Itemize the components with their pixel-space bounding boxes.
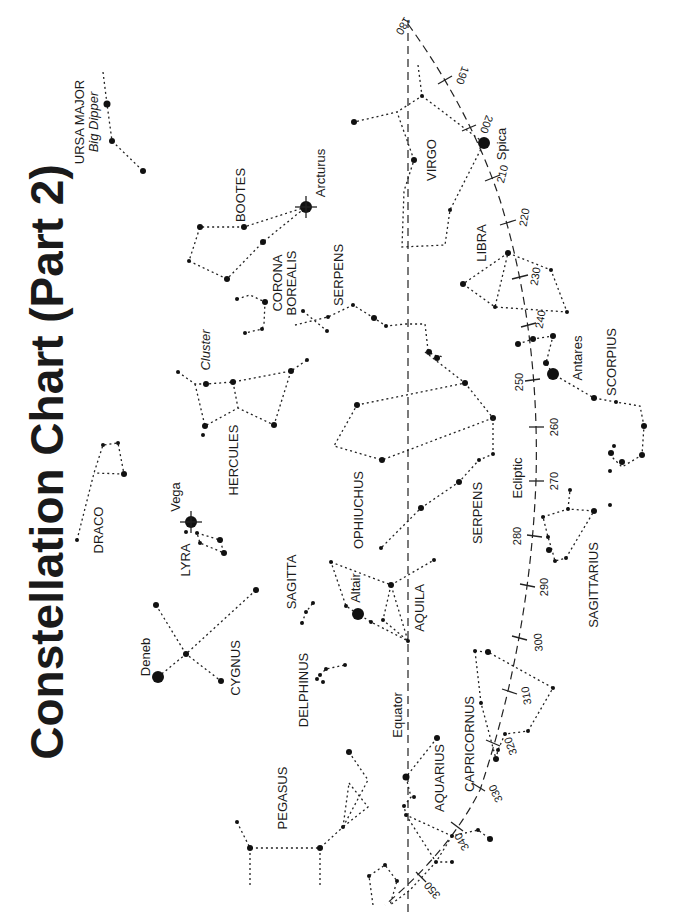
svg-text:LIBRA: LIBRA [474,224,489,262]
svg-text:BOREALIS: BOREALIS [284,250,299,315]
svg-text:Big Dipper: Big Dipper [86,91,101,152]
svg-text:Arcturus: Arcturus [313,148,328,197]
star-altair [352,608,364,620]
constellation-delphinus: DELPHINUS [296,652,347,727]
svg-text:310: 310 [519,686,534,706]
svg-text:SAGITTA: SAGITTA [284,554,299,609]
svg-text:SAGITTARIUS: SAGITTARIUS [586,542,601,628]
constellation-sagitta: SAGITTA [284,554,315,625]
constellation-pegasus: PEGASUS [235,749,368,885]
svg-text:180: 180 [394,15,414,37]
svg-text:VIRGO: VIRGO [424,139,439,181]
constellation-corona-borealis: CORONA BOREALIS [235,250,299,335]
svg-text:270: 270 [548,472,560,490]
constellation-scorpius: SCORPIUS Antares [515,328,647,507]
svg-text:CAPRICORNUS: CAPRICORNUS [462,696,477,792]
equator-label: Equator [390,692,405,738]
constellation-lyra: LYRA Vega [168,481,227,576]
svg-text:260: 260 [548,418,560,436]
svg-text:OPHIUCHUS: OPHIUCHUS [351,471,366,549]
svg-text:Spica: Spica [494,127,509,160]
constellation-sagittarius: SAGITTARIUS [541,488,601,628]
star-spica [478,137,490,149]
ecliptic-label: Ecliptic [510,457,525,499]
svg-text:SERPENS: SERPENS [331,244,346,306]
svg-text:350: 350 [421,880,442,902]
svg-text:Cluster: Cluster [198,329,213,371]
svg-text:SCORPIUS: SCORPIUS [604,328,619,396]
svg-text:210: 210 [494,164,510,185]
svg-text:LYRA: LYRA [178,543,193,576]
svg-text:AQUILA: AQUILA [412,584,427,632]
star-antares [547,368,559,380]
svg-text:290: 290 [538,578,550,596]
svg-text:320: 320 [501,736,519,757]
svg-text:HERCULES: HERCULES [226,424,241,495]
svg-text:CYGNUS: CYGNUS [228,640,243,696]
svg-text:190: 190 [454,65,472,86]
constellation-bootes: BOOTES Arcturus [187,148,328,282]
svg-text:200: 200 [478,114,496,135]
constellation-hercules: HERCULES Cluster [176,329,309,496]
svg-text:PEGASUS: PEGASUS [275,766,290,829]
constellation-serpens-cauda: SERPENS [379,418,495,550]
svg-text:330: 330 [486,783,505,805]
constellation-virgo: VIRGO Spica [351,65,509,247]
svg-text:220: 220 [517,207,532,227]
constellation-capricornus: CAPRICORNUS [462,649,555,792]
chart-title: Constellation Chart (Part 2) [21,164,73,760]
constellation-chart: Constellation Chart (Part 2) Equator Ecl… [0,0,677,923]
constellation-cygnus: CYGNUS Deneb [138,587,259,696]
svg-text:BOOTES: BOOTES [233,168,248,223]
svg-text:AQUARIUS: AQUARIUS [432,744,447,812]
svg-text:DRACO: DRACO [91,507,106,554]
svg-text:Deneb: Deneb [138,638,153,676]
svg-text:DELPHINUS: DELPHINUS [296,652,311,727]
svg-text:SERPENS: SERPENS [470,482,485,544]
svg-text:Antares: Antares [570,335,585,380]
svg-text:Altair: Altair [348,573,363,603]
svg-text:Vega: Vega [168,481,183,511]
svg-text:240: 240 [533,309,548,329]
svg-text:300: 300 [531,633,545,652]
constellation-libra: LIBRA [460,224,569,314]
star-deneb [152,671,164,683]
svg-text:CORONA: CORONA [270,254,285,311]
constellation-serpens-caput: SERPENS [295,244,444,361]
svg-text:250: 250 [513,373,525,391]
svg-text:230: 230 [528,266,543,286]
constellation-draco: DRACO [75,441,127,553]
constellation-aquila: AQUILA Altair [329,558,436,643]
svg-text:URSA MAJOR: URSA MAJOR [72,80,87,165]
svg-text:280: 280 [511,527,523,545]
constellation-ursa-major: URSA MAJOR Big Dipper [72,72,146,174]
